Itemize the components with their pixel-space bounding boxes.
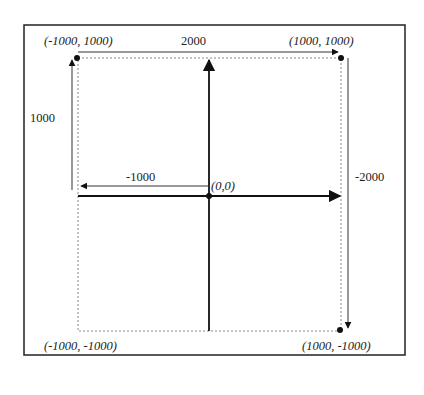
label-left-height: 1000 — [30, 111, 55, 125]
corner-dot-bottom-right — [337, 327, 343, 333]
corner-dot-top-right — [338, 55, 344, 61]
label-bottom-left: (-1000, -1000) — [44, 339, 117, 353]
coordinate-diagram: (-1000, 1000) (1000, 1000) (-1000, -1000… — [0, 0, 424, 395]
label-middle-width: -1000 — [126, 170, 155, 184]
label-top-left: (-1000, 1000) — [44, 34, 113, 48]
label-top-right: (1000, 1000) — [289, 34, 354, 48]
label-bottom-right: (1000, -1000) — [302, 339, 371, 353]
label-origin: (0,0) — [211, 179, 235, 193]
label-right-height: -2000 — [355, 170, 384, 184]
label-top-width: 2000 — [181, 34, 206, 48]
corner-dot-top-left — [74, 55, 80, 61]
origin-dot — [206, 193, 212, 199]
